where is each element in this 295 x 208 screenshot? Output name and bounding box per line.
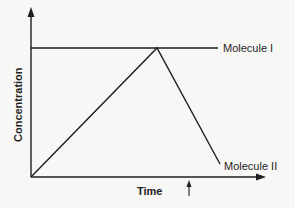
x-axis-label: Time [137, 185, 162, 197]
time-marker-arrow-icon [187, 180, 192, 196]
concentration-time-diagram: Molecule I Molecule II Time Concentratio… [0, 0, 295, 208]
x-axis [31, 174, 266, 181]
molecule-ii-label: Molecule II [224, 160, 277, 172]
molecule-i-label: Molecule I [223, 42, 273, 54]
x-axis-arrow-icon [256, 174, 266, 181]
y-axis-label: Concentration [12, 67, 24, 142]
y-axis-arrow-icon [28, 7, 35, 17]
molecule-ii-line [31, 48, 220, 177]
y-axis [28, 7, 35, 177]
